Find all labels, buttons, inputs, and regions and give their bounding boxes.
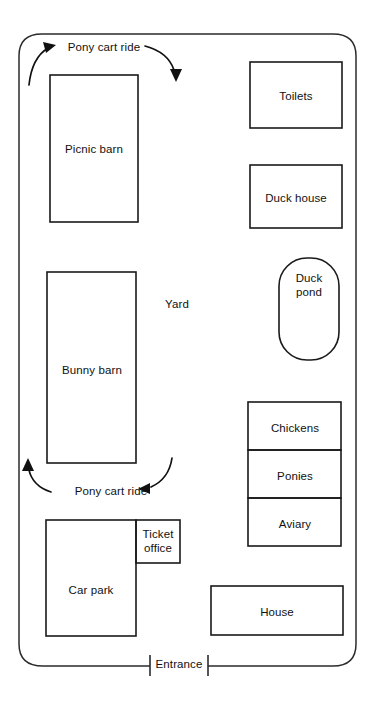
building-toilets-label: Toilets bbox=[279, 89, 312, 103]
building-bunny-barn-label: Bunny barn bbox=[62, 363, 122, 377]
entrance-label: Entrance bbox=[156, 657, 203, 671]
arrow-bottom-left-head bbox=[22, 458, 34, 471]
route-pony-cart-ride-bottom-label: Pony cart ride bbox=[75, 484, 147, 498]
building-ticket-office-label-line1: Ticket bbox=[136, 527, 180, 541]
building-ticket-office-label: Ticket office bbox=[136, 527, 180, 555]
area-car-park-label: Car park bbox=[69, 583, 114, 597]
arrow-top-left-path bbox=[29, 48, 48, 85]
open-area-yard-label: Yard bbox=[165, 297, 189, 311]
feature-duck-pond-label: Duck pond bbox=[281, 271, 337, 299]
building-house-label: House bbox=[260, 605, 294, 619]
arrow-top-right-head bbox=[170, 69, 182, 82]
farm-perimeter-outline bbox=[19, 34, 356, 666]
arrow-top-right-path bbox=[145, 46, 174, 70]
enclosure-chickens-label: Chickens bbox=[271, 421, 319, 435]
arrow-bottom-right-path bbox=[151, 458, 172, 487]
feature-duck-pond-label-line2: pond bbox=[281, 285, 337, 299]
building-duck-house-label: Duck house bbox=[265, 191, 327, 205]
farm-map-diagram: Picnic barn Bunny barn Toilets Duck hous… bbox=[0, 0, 372, 705]
building-ticket-office-label-line2: office bbox=[136, 541, 180, 555]
arrow-top-left-head bbox=[43, 42, 56, 53]
route-pony-cart-ride-top-label: Pony cart ride bbox=[68, 40, 140, 54]
building-picnic-barn-label: Picnic barn bbox=[65, 142, 123, 156]
enclosure-aviary-label: Aviary bbox=[279, 517, 311, 531]
enclosure-ponies-label: Ponies bbox=[277, 469, 313, 483]
map-canvas bbox=[0, 0, 372, 705]
arrow-bottom-left-path bbox=[29, 470, 51, 492]
feature-duck-pond-label-line1: Duck bbox=[281, 271, 337, 285]
area-car-park-outline bbox=[46, 520, 136, 636]
